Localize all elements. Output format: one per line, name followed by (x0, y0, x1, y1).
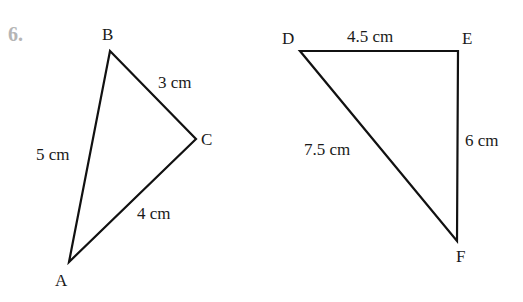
vertex-e-label: E (462, 29, 472, 48)
triangle-abc: B C A 3 cm 5 cm 4 cm (36, 25, 212, 290)
vertex-b-label: B (102, 25, 113, 44)
side-ca-label: 4 cm (137, 204, 171, 223)
vertex-c-label: C (201, 130, 212, 149)
triangle-def: D E F 4.5 cm 6 cm 7.5 cm (282, 27, 499, 266)
side-ef-label: 6 cm (465, 131, 499, 150)
question-number: 6. (8, 23, 23, 45)
side-df-label: 7.5 cm (304, 140, 350, 159)
side-bc-label: 3 cm (158, 73, 192, 92)
vertex-d-label: D (282, 29, 294, 48)
vertex-a-label: A (55, 271, 68, 290)
vertex-f-label: F (456, 247, 465, 266)
triangles-diagram: 6. B C A 3 cm 5 cm 4 cm D E F 4.5 cm 6 c… (0, 0, 523, 302)
side-ab-label: 5 cm (36, 145, 70, 164)
side-de-label: 4.5 cm (347, 27, 393, 46)
